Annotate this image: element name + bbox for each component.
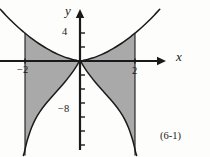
upper-right-shade <box>80 33 135 61</box>
y-axis-arrowhead <box>76 9 84 18</box>
lower-right-shade <box>80 61 137 156</box>
figure-caption: (6-1) <box>160 131 181 142</box>
x-axis-label: x <box>176 50 182 63</box>
upper-left-shade <box>25 33 80 61</box>
y-axis-label: y <box>65 4 71 17</box>
lower-left-shade <box>23 61 80 156</box>
x-tick-label-2: 2 <box>132 66 137 77</box>
figure-panel: y x 4 −8 −2 2 (6-1) <box>0 0 210 157</box>
y-tick-label-neg8: −8 <box>58 104 69 115</box>
x-axis-arrowhead <box>157 57 166 65</box>
y-tick-label-4: 4 <box>62 27 67 38</box>
x-tick-label-neg2: −2 <box>17 65 28 76</box>
